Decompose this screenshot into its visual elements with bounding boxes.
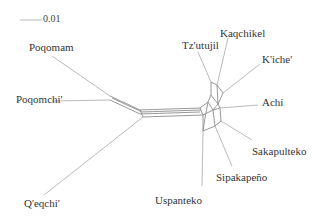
branch-tzutujil: [198, 52, 211, 82]
split-network-diagram: [0, 0, 316, 223]
split-edge: [142, 110, 201, 112]
network-splits: [110, 82, 223, 131]
split-edge: [218, 93, 223, 104]
split-edge: [217, 85, 223, 93]
branch-poqomam: [52, 56, 110, 96]
split-edge: [110, 96, 140, 110]
split-edge: [208, 95, 211, 102]
split-edge: [220, 108, 221, 121]
branch-qeqchi: [44, 117, 143, 195]
branch-achi: [220, 105, 258, 108]
split-edge: [208, 102, 213, 110]
split-edge: [215, 121, 221, 126]
taxon-label-kiche: K'iche': [262, 54, 292, 65]
split-edge: [203, 110, 213, 115]
split-edge: [112, 98, 142, 112]
split-edge: [140, 112, 200, 114]
taxon-label-tzutujil: Tz'utujil: [182, 40, 219, 51]
split-edge: [200, 108, 203, 115]
taxon-label-sipakapeno: Sipakapeño: [216, 172, 267, 183]
branch-uspanteko: [202, 131, 203, 186]
split-edge: [211, 95, 218, 104]
split-edge: [218, 104, 220, 108]
split-edge: [213, 110, 215, 126]
split-edge: [211, 82, 217, 85]
taxon-label-poqomchi: Poqomchi': [16, 94, 63, 105]
taxon-label-qeqchi: Q'eqchi': [24, 198, 60, 209]
taxon-label-poqomam: Poqomam: [29, 42, 74, 53]
taxon-label-achi: Achí: [262, 97, 283, 108]
branch-sakapulteko: [221, 121, 252, 140]
taxon-label-kaqchikel: Kaqchikel: [220, 28, 265, 39]
branch-sipakapeno: [215, 126, 232, 166]
split-edge: [140, 108, 200, 110]
branch-kiche: [223, 64, 260, 93]
split-edge: [203, 126, 215, 131]
split-edge: [143, 115, 203, 117]
taxon-label-uspanteko: Uspanteko: [155, 195, 202, 206]
split-edge: [217, 85, 218, 104]
taxon-label-sakapulteko: Sakapulteko: [252, 146, 306, 157]
split-edge: [110, 100, 140, 114]
scale-bar-label: 0.01: [43, 14, 61, 24]
